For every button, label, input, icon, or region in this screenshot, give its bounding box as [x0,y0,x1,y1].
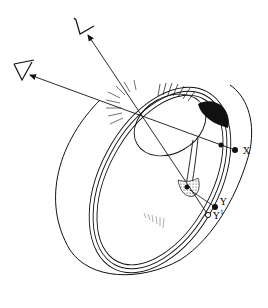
label-y1: Y [212,210,220,221]
label-y: Y [219,196,227,207]
viewer-upper-icon [74,18,94,34]
iris-lens [123,82,217,168]
label-x: X [243,145,251,156]
eye-diagram: X Y Y 1 [0,0,268,308]
point-x [232,147,238,153]
texture-strokes [144,213,164,228]
viewer-left-icon [14,60,34,80]
pigment-region [198,101,229,128]
optic-tube [186,138,198,185]
node-inner-y [185,185,190,190]
point-y1 [205,212,210,217]
node-inner-x [219,143,224,148]
ciliary-fringe-upper [158,83,195,101]
sight-line-upper [88,35,208,215]
label-y1-superscript: 1 [220,208,224,215]
